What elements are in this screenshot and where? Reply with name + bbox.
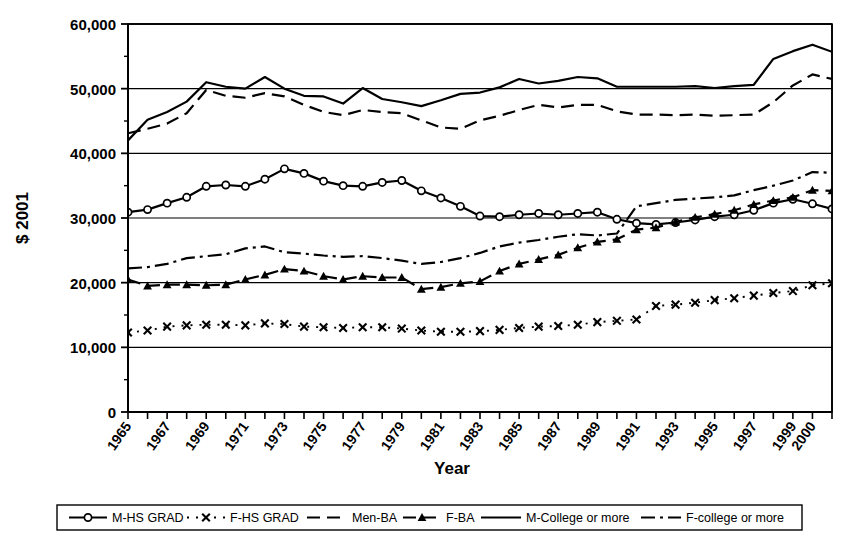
x-axis-tick-label: 1985 [495,418,526,453]
x-axis-tick-label: 1991 [612,418,643,453]
legend-label: F-BA [446,511,475,525]
data-point-marker [613,216,620,223]
data-point-marker [320,178,327,185]
data-point-marker [340,182,347,189]
y-axis-tick-label: 50,000 [70,81,116,98]
x-axis-tick-label: 1989 [573,418,604,453]
data-point-marker [242,183,249,190]
data-point-marker [164,200,171,207]
chart-container: 010,00020,00030,00040,00050,00060,000$ 2… [0,0,858,539]
x-axis-tick-label: 1971 [221,418,252,453]
x-axis-tick-label: 1977 [338,418,369,453]
x-axis-tick-label: 1969 [182,418,213,453]
x-axis-tick-label: 1975 [299,418,330,453]
y-axis-tick-label: 0 [108,404,116,421]
data-point-marker [496,213,503,220]
y-axis-tick-label: 30,000 [70,210,116,227]
data-point-marker [203,183,210,190]
y-axis-title: $ 2001 [13,192,32,244]
y-axis-tick-label: 40,000 [70,145,116,162]
data-point-marker [574,210,581,217]
legend-label: M-HS GRAD [112,511,184,525]
y-axis-tick-label: 60,000 [70,16,116,33]
data-point-marker [379,179,386,186]
data-point-marker [535,210,542,217]
legend-label: M-College or more [526,511,630,525]
data-point-marker [261,176,268,183]
data-point-marker [457,203,464,210]
x-axis-tick-label: 1981 [416,418,447,453]
data-point-marker [594,209,601,216]
y-axis-tick-label: 20,000 [70,275,116,292]
data-point-marker [281,165,288,172]
x-axis-tick-label: 1983 [455,418,486,453]
data-point-marker [516,211,523,218]
data-point-marker [222,181,229,188]
data-point-marker [300,170,307,177]
data-point-marker [418,187,425,194]
data-point-marker [359,183,366,190]
data-point-marker [437,194,444,201]
data-point-marker [144,206,151,213]
x-axis-tick-label: 1987 [534,418,565,453]
data-point-marker [84,514,91,521]
chart-legend: M-HS GRADF-HS GRADMen-BAF-BAM-College or… [57,505,802,530]
data-point-marker [476,212,483,219]
x-axis-tick-label: 1993 [651,418,682,453]
x-axis-tick-label: 1965 [103,418,134,453]
data-point-marker [183,194,190,201]
x-axis-tick-label: 1967 [143,418,174,453]
legend-label: F-HS GRAD [230,511,299,525]
x-axis-tick-label: 1979 [377,418,408,453]
x-axis-tick-label: 1973 [260,418,291,453]
x-axis-title: Year [434,459,470,478]
y-axis-tick-label: 10,000 [70,339,116,356]
data-point-marker [809,200,816,207]
x-axis-tick-label: 1995 [690,418,721,453]
legend-label: Men-BA [352,511,398,525]
data-point-marker [555,211,562,218]
data-point-marker [398,177,405,184]
legend-label: F-college or more [686,511,784,525]
income-by-education-line-chart: 010,00020,00030,00040,00050,00060,000$ 2… [0,0,858,539]
x-axis-tick-label: 1997 [729,418,760,453]
